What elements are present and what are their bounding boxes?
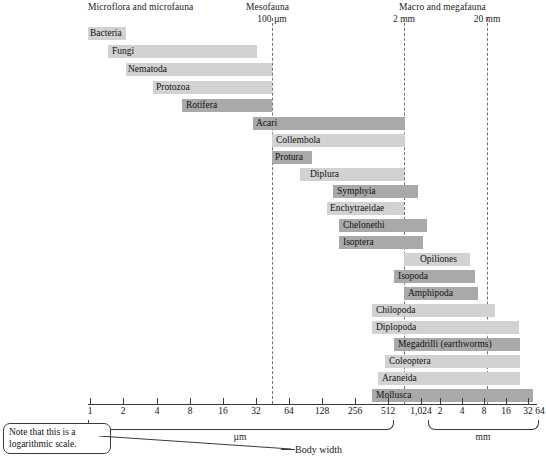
axis-tick [506,398,507,404]
bar-row: Collembola [0,134,546,147]
axis-tick [289,398,290,404]
axis-tick-label: 32 [523,406,533,416]
unit-brace-µm [88,420,394,430]
group-heading-microflora: Microflora and microfauna [88,2,193,12]
axis-tick-label: 256 [348,406,362,416]
bar-label: Megadrilli (earthworms) [398,338,492,351]
bar-label: Acari [256,117,277,130]
bar-row: Diplura [0,168,546,181]
bar-label: Nematoda [128,63,167,76]
bar-row: Isoptera [0,236,546,249]
bar-row: Protura [0,151,546,164]
axis-tick [421,398,422,404]
bar-row: Mollusca [0,389,546,402]
axis-tick-label: 2 [121,406,126,416]
bar-row: Amphipoda [0,287,546,300]
axis-tick-label: 64 [284,406,294,416]
axis-tick [528,398,529,404]
bar-row: Opiliones [0,253,546,266]
axis-tick-label: 16 [501,406,511,416]
axis-tick-label: 8 [482,406,487,416]
bar-label: Rotifera [186,99,217,112]
bar-label: Collembola [276,134,320,147]
axis-tick-label: 1 [88,406,93,416]
bar-label: Protura [275,151,303,164]
axis-tick-label: 128 [315,406,329,416]
axis-tick [440,398,441,404]
bar-label: Chilopoda [376,304,416,317]
unit-brace-mm [428,420,539,430]
bar-label: Isopoda [398,270,428,283]
bar-label: Amphipoda [408,287,453,300]
bar-row: Araneida [0,372,546,385]
bar-row: Symphyia [0,185,546,198]
axis-tick [484,398,485,404]
bar-row: Bacteria [0,27,546,40]
axis-tick-label: 512 [381,406,395,416]
group-heading-macrofauna: Macro and megafauna [399,2,486,12]
axis-tick-label: 32 [251,406,261,416]
bar-label: Opiliones [420,253,457,266]
bar-row: Megadrilli (earthworms) [0,338,546,351]
bar-label: Symphyia [337,185,376,198]
bar-row: Isopoda [0,270,546,283]
bar-label: Bacteria [90,27,122,40]
bar-row: Chilopoda [0,304,546,317]
bar-row: Acari [0,117,546,130]
axis-tick [462,398,463,404]
bar-label: Fungi [112,45,134,58]
axis-tick-label: 2 [438,406,443,416]
axis-tick-label: 64 [535,406,545,416]
axis-tick [355,398,356,404]
group-heading-mesofauna: Mesofauna [246,2,289,12]
bar-label: Diplura [310,168,339,181]
axis-tick-label: 8 [188,406,193,416]
body-width-leader-line [281,449,295,450]
axis-tick [223,398,224,404]
bar-row: Diplopoda [0,321,546,334]
axis-tick [256,398,257,404]
axis-tick [123,398,124,404]
bar-label: Coleoptera [389,355,431,368]
note-leader-line [99,436,291,452]
unit-label-mm: mm [476,432,491,442]
body-width-caption: Body width [295,444,342,455]
log-scale-note: Note that this is a logarithmic scale. [3,423,111,454]
bar-label: Protozoa [156,81,190,94]
bar-row: Chelonethi [0,219,546,232]
axis-tick [157,398,158,404]
bar-label: Mollusca [376,389,411,402]
bar-label: Enchytraeidae [330,202,384,215]
bar-label: Isoptera [343,236,374,249]
axis-tick-label: 16 [218,406,228,416]
axis-tick [190,398,191,404]
bar-row: Protozoa [0,81,546,94]
bar-row: Enchytraeidae [0,202,546,215]
bar-label: Chelonethi [343,219,385,232]
bar-label: Diplopoda [376,321,416,334]
bar-label: Araneida [382,372,417,385]
axis-tick-label: 4 [155,406,160,416]
bar-row: Rotifera [0,99,546,112]
bar-row: Coleoptera [0,355,546,368]
axis-tick-label: 1,024 [410,406,431,416]
axis-tick-label: 4 [460,406,465,416]
axis-line [88,404,537,405]
bar-row: Fungi [0,45,546,58]
axis-tick [322,398,323,404]
axis-tick [388,398,389,404]
bar-row: Nematoda [0,63,546,76]
axis-tick [90,398,91,404]
body-width-figure: Microflora and microfaunaMesofaunaMacro … [0,0,546,466]
